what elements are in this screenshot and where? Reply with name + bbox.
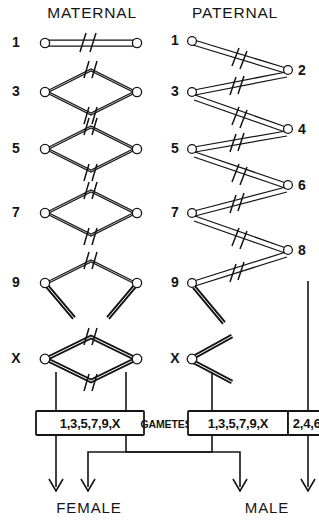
- row-label-paternal-1: 1: [171, 32, 179, 48]
- centromere-icon: [132, 38, 141, 47]
- centromere-icon: [187, 354, 197, 364]
- line-paternal-x-to-female: [88, 435, 212, 487]
- line-maternal-to-male: [126, 435, 240, 487]
- centromere-icon: [284, 66, 293, 75]
- maternal-chromosome-5: [40, 118, 141, 181]
- centromere-icon: [40, 144, 49, 153]
- column-headers: MATERNAL PATERNAL: [47, 4, 278, 21]
- fertilisation-lines: [49, 435, 315, 491]
- diagram-canvas: MATERNAL PATERNAL: [0, 0, 319, 520]
- centromere-icon: [40, 278, 49, 287]
- paternal-chromosome-7: [188, 209, 286, 253]
- maternal-chromosome-3: [40, 61, 141, 124]
- row-label-paternal-4: 4: [298, 121, 306, 137]
- maternal-chromosome-7: [40, 182, 141, 245]
- centromere-icon: [132, 87, 141, 96]
- centromere-icon: [40, 354, 50, 364]
- maternal-chromosome-1: [40, 33, 141, 52]
- row-label-maternal-3: 3: [12, 83, 20, 99]
- paternal-chromosome-x: [187, 336, 232, 382]
- row-label-paternal-3: 3: [171, 83, 179, 99]
- row-label-maternal-5: 5: [12, 140, 20, 156]
- centromere-icon: [284, 181, 293, 190]
- row-label-paternal-5: 5: [171, 140, 179, 156]
- offspring-labels: FEMALE MALE: [56, 499, 289, 516]
- maternal-row-labels: 1 3 5 7 9 X: [11, 34, 21, 366]
- maternal-chromosome-9: [40, 252, 141, 318]
- paternal-chromosome-8: [194, 246, 292, 286]
- centromere-icon: [188, 88, 197, 97]
- centromere-icon: [40, 87, 49, 96]
- centromere-icon: [284, 125, 293, 134]
- row-label-paternal-6: 6: [298, 177, 306, 193]
- centromere-icon: [132, 354, 142, 364]
- paternal-chromosome-9: [188, 279, 224, 323]
- centromere-icon: [40, 208, 49, 217]
- paternal-chromosome-2: [194, 66, 292, 95]
- maternal-column: 1 3 5 7 9 X: [11, 33, 141, 391]
- paternal-chromosome-3: [188, 88, 286, 132]
- gametes-caption: GAMETES: [140, 418, 191, 430]
- centromere-icon: [40, 38, 49, 47]
- centromere-icon: [132, 208, 141, 217]
- row-label-paternal-8: 8: [298, 242, 306, 258]
- paternal-column: 1 2 3 4 5 6 7 8 9 X: [170, 32, 306, 382]
- row-label-maternal-9: 9: [12, 274, 20, 290]
- header-maternal: MATERNAL: [47, 4, 137, 21]
- descent-lines: [56, 281, 308, 411]
- row-label-paternal-2: 2: [298, 62, 306, 78]
- gamete-box-paternal-x-label: 1,3,5,7,9,X: [208, 416, 269, 431]
- paternal-chromosome-4: [194, 125, 292, 152]
- offspring-female-label: FEMALE: [56, 499, 121, 516]
- centromere-icon: [132, 144, 141, 153]
- gamete-box-maternal-label: 1,3,5,7,9,X: [60, 416, 121, 431]
- paternal-chromosome-1: [188, 37, 286, 73]
- centromere-icon: [188, 279, 197, 288]
- row-label-maternal-1: 1: [12, 34, 20, 50]
- chromosome-gamete-diagram: MATERNAL PATERNAL: [0, 0, 319, 520]
- gamete-boxes: 1,3,5,7,9,X GAMETES 1,3,5,7,9,X 2,4,6,8: [36, 411, 319, 435]
- row-label-paternal-x: X: [170, 350, 180, 366]
- header-paternal: PATERNAL: [192, 4, 278, 21]
- gamete-box-paternal-y-label: 2,4,6,8: [293, 416, 319, 431]
- row-label-paternal-9: 9: [171, 274, 179, 290]
- centromere-icon: [284, 246, 293, 255]
- row-label-paternal-7: 7: [171, 204, 179, 220]
- row-label-maternal-x: X: [11, 350, 21, 366]
- centromere-icon: [188, 209, 197, 218]
- centromere-icon: [188, 145, 197, 154]
- centromere-icon: [188, 37, 197, 46]
- offspring-male-label: MALE: [245, 499, 289, 516]
- centromere-icon: [132, 278, 141, 287]
- row-label-maternal-7: 7: [12, 204, 20, 220]
